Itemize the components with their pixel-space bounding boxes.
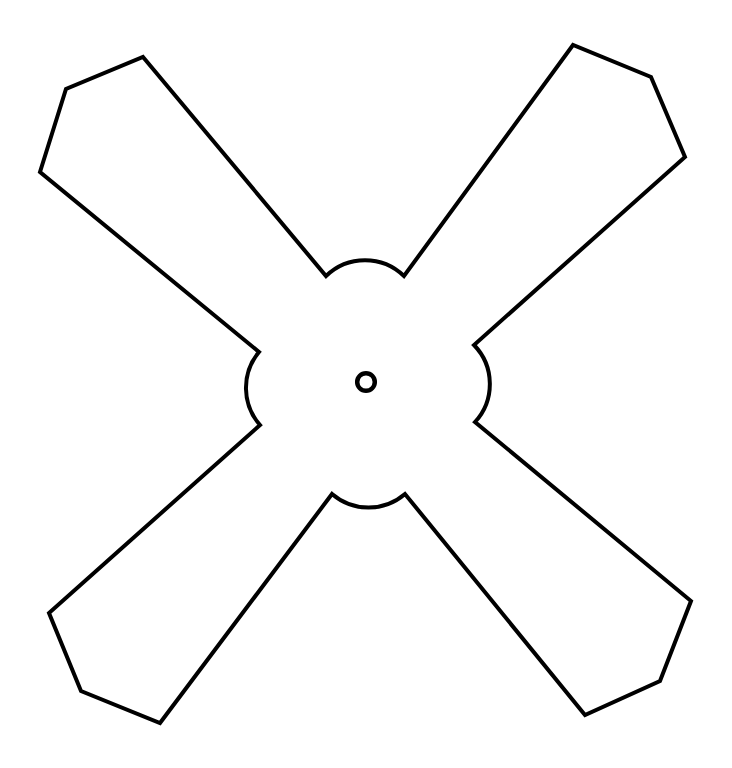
- hub-bore-circle: [357, 373, 375, 391]
- figure-canvas: Four-blade fan / propeller outline: [0, 0, 732, 768]
